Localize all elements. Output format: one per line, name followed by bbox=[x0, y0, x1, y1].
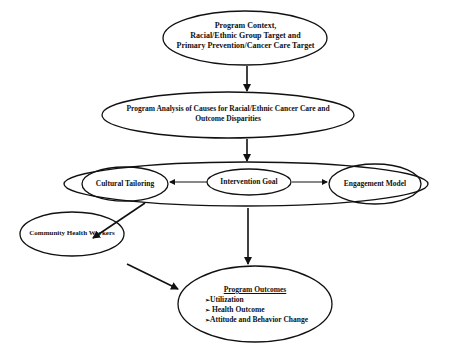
context-line-1: Program Context, bbox=[163, 21, 328, 31]
chw-label: Community Health Workers bbox=[20, 229, 124, 237]
outcome-item-utilization: Utilization bbox=[205, 295, 325, 305]
context-line-3: Primary Prevention/Cancer Care Target bbox=[163, 41, 328, 51]
analysis-line-2: Outcome Disparities bbox=[102, 114, 354, 124]
context-label: Program Context, Racial/Ethnic Group Tar… bbox=[163, 21, 328, 51]
outcome-item-health: Health Outcome bbox=[205, 305, 325, 315]
context-line-2: Racial/Ethnic Group Target and bbox=[163, 31, 328, 41]
arrow-chw-to-outcomes bbox=[127, 264, 178, 289]
outcomes-content: Program Outcomes Utilization Health Outc… bbox=[205, 285, 325, 325]
outcome-item-attitude: Attitude and Behavior Change bbox=[205, 315, 325, 325]
intervention-goal-label: Intervention Goal bbox=[207, 177, 291, 186]
outcomes-title: Program Outcomes bbox=[205, 285, 305, 295]
analysis-label: Program Analysis of Causes for Racial/Et… bbox=[102, 104, 354, 124]
cultural-tailoring-label: Cultural Tailoring bbox=[82, 179, 168, 188]
analysis-line-1: Program Analysis of Causes for Racial/Et… bbox=[102, 104, 354, 114]
engagement-model-label: Engagement Model bbox=[329, 179, 421, 188]
